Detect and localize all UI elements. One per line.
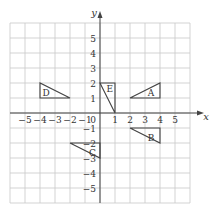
y-tick-label: −3 bbox=[83, 154, 97, 164]
x-tick-label: 2 bbox=[127, 115, 133, 125]
y-axis-label: y bbox=[90, 7, 97, 18]
y-axis-arrow-icon bbox=[98, 11, 103, 18]
x-tick-label: 1 bbox=[112, 115, 118, 125]
x-axis-label: x bbox=[203, 111, 209, 122]
y-tick-label: 1 bbox=[90, 94, 96, 104]
x-tick-label: −4 bbox=[33, 115, 47, 125]
y-tick-label: 3 bbox=[90, 64, 96, 74]
x-tick-label: 3 bbox=[142, 115, 148, 125]
triangle-label-a: A bbox=[147, 88, 155, 98]
y-tick-label: −1 bbox=[83, 124, 96, 134]
axis-labels: −5−4−3−2−112345−5−4−3−2−1123450xy bbox=[18, 7, 209, 194]
y-tick-label: −2 bbox=[83, 139, 96, 149]
y-tick-label: 4 bbox=[90, 49, 96, 59]
y-tick-label: −4 bbox=[83, 169, 97, 179]
y-tick-label: −5 bbox=[83, 184, 97, 194]
x-tick-label: 4 bbox=[157, 115, 163, 125]
origin-label: 0 bbox=[90, 115, 96, 125]
triangle-label-b: B bbox=[148, 133, 155, 143]
x-tick-label: 5 bbox=[172, 115, 178, 125]
triangle-label-e: E bbox=[106, 84, 113, 94]
y-tick-label: 2 bbox=[90, 79, 96, 89]
y-tick-label: 5 bbox=[90, 34, 96, 44]
triangle-label-d: D bbox=[42, 88, 49, 98]
x-tick-label: −5 bbox=[18, 115, 32, 125]
x-tick-label: −3 bbox=[48, 115, 62, 125]
x-tick-label: −2 bbox=[63, 115, 76, 125]
coordinate-grid: ABCDE −5−4−3−2−112345−5−4−3−2−1123450xy bbox=[0, 0, 215, 217]
